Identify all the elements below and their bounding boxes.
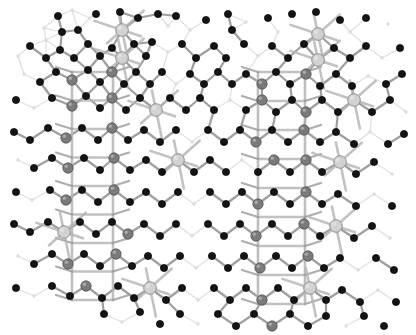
atom-light-atom [330, 44, 337, 51]
atom-light-atom [388, 202, 395, 209]
atom-linker-heavy-atom [107, 67, 117, 77]
atom-hydrogen-atom [23, 73, 26, 76]
atom-light-atom [158, 168, 165, 175]
atom-light-atom [274, 284, 281, 291]
atom-light-atom [108, 218, 115, 225]
atom-light-atom [140, 220, 147, 227]
atom-light-atom [242, 284, 249, 291]
atom-light-atom [12, 284, 19, 291]
atom-linker-heavy-atom [301, 69, 311, 79]
atom-hydrogen-atom [387, 23, 390, 26]
atom-light-atom [96, 104, 103, 111]
atom-light-atom [220, 232, 227, 239]
atom-light-atom [66, 292, 73, 299]
atom-light-atom [48, 282, 55, 289]
atom-linker-heavy-atom [109, 153, 119, 163]
atom-linker-heavy-atom [269, 155, 279, 165]
atom-linker-heavy-atom [63, 259, 73, 269]
atom-light-atom [362, 42, 369, 49]
atom-light-atom [10, 220, 17, 227]
atom-light-atom [74, 26, 81, 33]
atom-light-atom [222, 168, 229, 175]
atom-light-atom [46, 186, 53, 193]
atom-hydrogen-atom [349, 31, 352, 34]
structure-canvas [0, 0, 416, 335]
atom-linker-heavy-atom [299, 125, 309, 135]
atom-light-atom [140, 126, 147, 133]
atom-light-atom [26, 228, 33, 235]
atom-hydrogen-atom [357, 269, 360, 272]
atom-light-atom [290, 296, 297, 303]
atom-light-atom [320, 264, 327, 271]
atom-metal-center-atom [58, 226, 70, 238]
atom-linker-heavy-atom [253, 199, 263, 209]
atom-light-atom [350, 140, 357, 147]
atom-light-atom [36, 78, 43, 85]
atom-hydrogen-atom [405, 111, 408, 114]
atom-light-atom [42, 54, 49, 61]
atom-light-atom [146, 80, 153, 87]
atom-light-atom [114, 282, 121, 289]
atom-light-atom [236, 220, 243, 227]
atom-hydrogen-atom [121, 321, 124, 324]
atom-light-atom [284, 54, 291, 61]
atom-metal-center-atom [116, 52, 128, 64]
atom-linker-heavy-atom [257, 295, 267, 305]
atom-linker-heavy-atom [63, 163, 73, 173]
atom-light-atom [58, 28, 65, 35]
atom-light-atom [270, 188, 277, 195]
atom-light-atom [10, 128, 17, 135]
atom-light-atom [76, 218, 83, 225]
atom-light-atom [94, 136, 101, 143]
atom-light-atom [48, 250, 55, 257]
atom-light-atom [390, 266, 397, 273]
atom-light-atom [288, 96, 295, 103]
atom-light-atom [48, 94, 55, 101]
atom-hydrogen-atom [193, 203, 196, 206]
atom-linker-heavy-atom [257, 95, 267, 105]
atom-light-atom [172, 220, 179, 227]
atom-light-atom [318, 168, 325, 175]
atom-light-atom [316, 82, 323, 89]
atom-light-atom [44, 218, 51, 225]
atom-light-atom [78, 124, 85, 131]
atom-light-atom [362, 14, 369, 21]
atom-hydrogen-atom [197, 323, 200, 326]
atom-light-atom [98, 294, 105, 301]
atom-light-atom [178, 284, 185, 291]
atom-light-atom [210, 42, 217, 49]
atom-hydrogen-atom [71, 9, 74, 12]
atom-light-atom [156, 232, 163, 239]
atom-hydrogen-atom [367, 75, 370, 78]
atom-light-atom [120, 80, 127, 87]
atom-hydrogen-atom [377, 289, 380, 292]
atom-light-atom [220, 138, 227, 145]
atom-light-atom [70, 54, 77, 61]
atom-light-atom [268, 126, 275, 133]
atom-light-atom [360, 312, 367, 319]
atom-light-atom [84, 66, 91, 73]
atom-light-atom [156, 320, 163, 327]
atom-light-atom [134, 14, 141, 21]
atom-light-atom [124, 136, 131, 143]
atom-hydrogen-atom [167, 51, 170, 54]
atom-light-atom [44, 124, 51, 131]
atom-light-atom [202, 16, 209, 23]
atom-light-atom [264, 14, 271, 21]
atom-light-atom [84, 40, 91, 47]
atom-light-atom [228, 26, 235, 33]
atom-hydrogen-atom [17, 159, 20, 162]
atom-light-atom [154, 10, 161, 17]
atom-metal-center-atom [172, 154, 184, 166]
atom-light-atom [100, 310, 107, 317]
atom-light-atom [12, 96, 19, 103]
atom-hydrogen-atom [33, 107, 36, 110]
atom-linker-heavy-atom [111, 249, 121, 259]
atom-light-atom [30, 260, 37, 267]
atom-light-atom [130, 40, 137, 47]
atom-light-atom [224, 264, 231, 271]
atom-light-atom [286, 200, 293, 207]
atom-light-atom [206, 188, 213, 195]
atom-light-atom [284, 138, 291, 145]
atom-light-atom [250, 310, 257, 317]
